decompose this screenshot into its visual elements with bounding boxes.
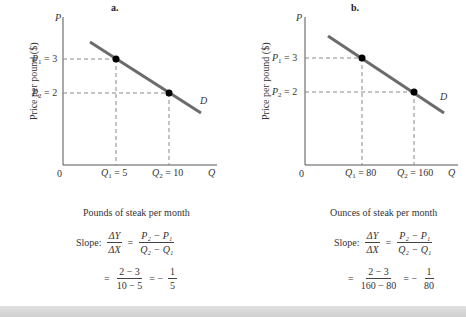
point-1	[113, 56, 120, 63]
panel-b-p-axis: P	[296, 12, 302, 23]
panel-b-slope-result: = 2 − 3160 − 80 = − 180	[348, 266, 436, 291]
demand-curve	[328, 36, 444, 113]
panel-b-slope-formula: Slope: ΔYΔX = P₂ − P₁Q₂ − Q₁	[334, 230, 433, 255]
panel-a-demand-label: D	[200, 95, 207, 106]
delta-fraction: ΔYΔX	[365, 230, 381, 255]
demand-curve	[90, 42, 201, 113]
panel-a-title: a.	[111, 2, 119, 13]
panel-b-p1-label: P1 = 3	[272, 52, 297, 65]
panel-a-xlabel: Pounds of steak per month	[83, 207, 190, 218]
panel-a-origin: 0	[57, 168, 62, 179]
symbolic-fraction: P₂ − P₁Q₂ − Q₁	[138, 230, 175, 255]
panel-a-p1-label: P1 = 3	[32, 53, 57, 66]
panel-a-q-axis: Q	[208, 167, 215, 178]
panel-b-demand-label: D	[440, 91, 447, 102]
value-fraction: 2 − 3160 − 80	[359, 266, 399, 291]
panel-a-p-axis: P	[55, 12, 61, 23]
result-fraction: 180	[422, 266, 436, 291]
value-fraction: 2 − 310 − 5	[115, 266, 145, 291]
panel-a-slope-result: = 2 − 310 − 5 = − 15	[104, 266, 177, 291]
panel-b-plot	[305, 17, 458, 165]
delta-fraction: ΔYΔX	[107, 230, 123, 255]
panel-a-q1-label: Q1 = 5	[101, 167, 127, 180]
panel-b-origin: 0	[299, 168, 304, 179]
result-fraction: 15	[168, 266, 177, 291]
bottom-strip	[0, 306, 466, 317]
panel-a-slope-formula: Slope: ΔYΔX = P₂ − P₁Q₂ − Q₁	[76, 230, 175, 255]
panel-a-plot	[63, 17, 217, 165]
panel-b-ylabel: Price per pound ($)	[260, 43, 271, 120]
point-2	[411, 89, 418, 96]
panel-b-xlabel: Ounces of steak per month	[330, 207, 437, 218]
point-2	[166, 90, 173, 97]
panel-b-q-axis: Q	[448, 167, 455, 178]
slope-label: Slope:	[76, 237, 102, 248]
panel-a-q2-label: Q2 = 10	[152, 167, 183, 180]
point-1	[359, 55, 366, 62]
panel-b-p2-label: P2 = 2	[272, 86, 297, 99]
panel-b-q1-label: Q1 = 80	[345, 167, 376, 180]
panel-a-p2-label: P2 = 2	[32, 87, 57, 100]
slope-label: Slope:	[334, 237, 360, 248]
panel-b-q2-label: Q2 = 160	[397, 167, 433, 180]
panel-b-title: b.	[351, 2, 359, 13]
symbolic-fraction: P₂ − P₁Q₂ − Q₁	[396, 230, 433, 255]
